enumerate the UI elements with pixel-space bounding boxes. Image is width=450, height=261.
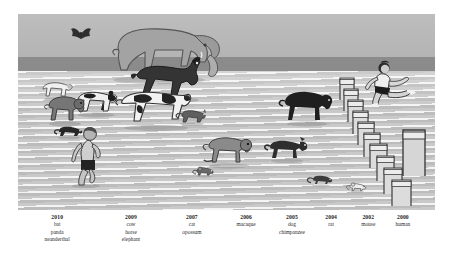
race-illustration: [18, 14, 435, 210]
genome-sequencing-timeline-figure: 2010 bat panda neanderthal 2009 cow hors…: [0, 0, 450, 261]
caption-species: chimpanzee: [259, 229, 326, 236]
caption-species: cat: [161, 221, 224, 228]
caption-species: panda: [18, 229, 96, 236]
caption-year: 2007: [161, 214, 224, 221]
caption-species: opossum: [161, 229, 224, 236]
caption-species: human: [376, 221, 430, 228]
caption-year: 2000: [376, 214, 430, 221]
caption-species: cow: [96, 221, 167, 228]
caption-column-2010: 2010 bat panda neanderthal: [18, 214, 96, 243]
caption-year: 2009: [96, 214, 167, 221]
caption-species: neanderthal: [18, 236, 96, 243]
caption-column-2009: 2009 cow horse elephant: [96, 214, 167, 243]
caption-year: 2010: [18, 214, 96, 221]
timeline-captions: 2010 bat panda neanderthal 2009 cow hors…: [18, 214, 435, 258]
caption-species: horse: [96, 229, 167, 236]
animal-human: [364, 61, 420, 107]
caption-column-2000: 2000 human: [376, 214, 430, 229]
caption-species: elephant: [96, 236, 167, 243]
caption-species: bat: [18, 221, 96, 228]
hurdles-row: [18, 14, 435, 210]
caption-column-2007: 2007 cat opossum: [161, 214, 224, 236]
